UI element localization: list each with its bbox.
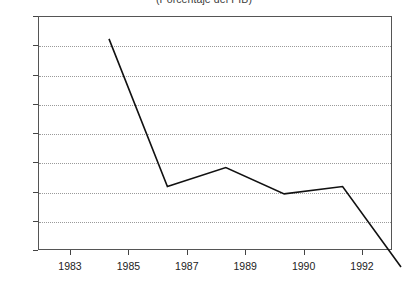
- y-tick-mark-0: [33, 250, 38, 251]
- plot-area: [38, 16, 392, 250]
- x-tick-mark-1983: [70, 250, 71, 255]
- chart-title: (Porcentaje del PIB): [0, 0, 408, 5]
- series-line-porcentaje-del-pib: [77, 33, 408, 267]
- data-line: [109, 39, 401, 267]
- line-chart: (Porcentaje del PIB) 0246810121416 19831…: [0, 0, 408, 287]
